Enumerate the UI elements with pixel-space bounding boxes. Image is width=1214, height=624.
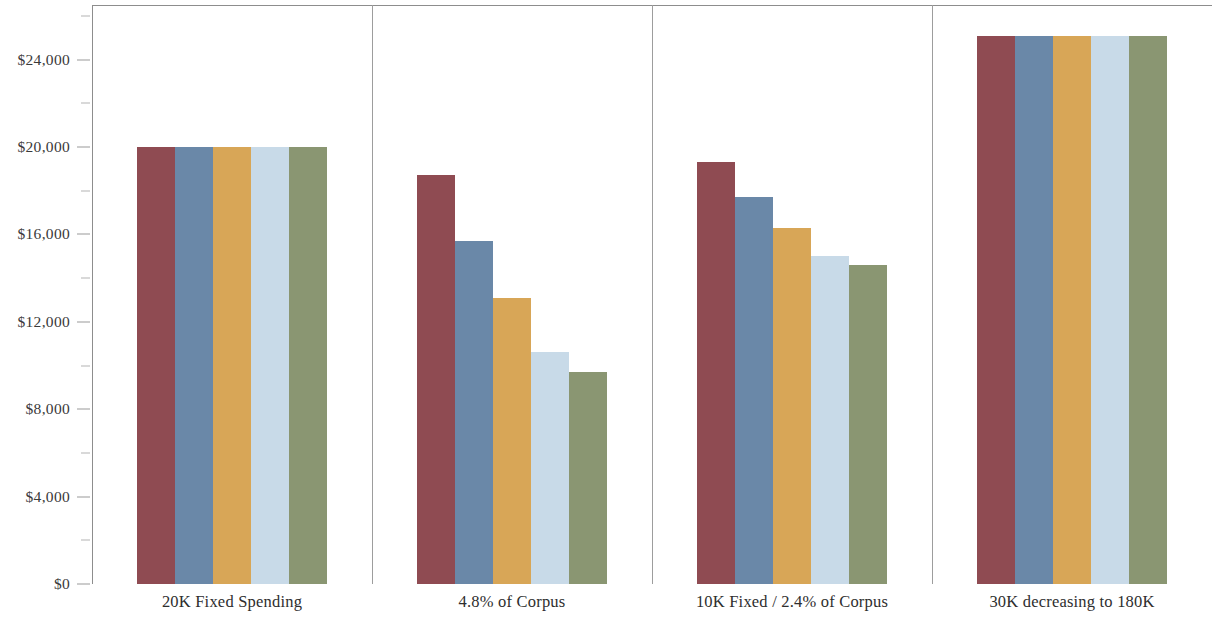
y-axis: $0$4,000$8,000$12,000$16,000$20,000$24,0… [0, 0, 92, 624]
y-axis-minor-tick [81, 452, 90, 453]
bar [773, 228, 811, 584]
bar [569, 372, 607, 584]
y-axis-minor-tick [81, 190, 90, 191]
y-axis-tick-label: $0 [54, 575, 70, 593]
y-axis-tick-label: $8,000 [26, 400, 70, 418]
y-axis-major-tick [77, 321, 90, 322]
bar [251, 147, 289, 584]
x-axis-category-label: 4.8% of Corpus [372, 592, 652, 612]
bar [1091, 36, 1129, 584]
bar [175, 147, 213, 584]
bar [1015, 36, 1053, 584]
bar [531, 352, 569, 584]
panel-divider [652, 5, 653, 584]
bar [493, 298, 531, 584]
x-axis-category-label: 10K Fixed / 2.4% of Corpus [652, 592, 932, 612]
y-axis-minor-tick [81, 365, 90, 366]
y-axis-major-tick [77, 234, 90, 235]
y-axis-tick-label: $12,000 [18, 313, 70, 331]
y-axis-major-tick [77, 584, 90, 585]
y-axis-major-tick [77, 59, 90, 60]
y-axis-tick-label: $24,000 [18, 51, 70, 69]
y-axis-minor-tick [81, 278, 90, 279]
y-axis-major-tick [77, 496, 90, 497]
bar [849, 265, 887, 584]
x-axis-category-label: 20K Fixed Spending [92, 592, 372, 612]
bar [137, 147, 175, 584]
y-axis-major-tick [77, 147, 90, 148]
y-axis-tick-label: $4,000 [26, 488, 70, 506]
y-axis-major-tick [77, 409, 90, 410]
bar [213, 147, 251, 584]
bar [1053, 36, 1091, 584]
y-axis-minor-tick [81, 540, 90, 541]
panel-divider [372, 5, 373, 584]
bar [1129, 36, 1167, 584]
bar [455, 241, 493, 584]
y-axis-tick-label: $20,000 [18, 138, 70, 156]
bar [977, 36, 1015, 584]
y-axis-tick-label: $16,000 [18, 225, 70, 243]
panel-divider [932, 5, 933, 584]
y-axis-minor-tick [81, 103, 90, 104]
y-axis-minor-tick [81, 15, 90, 16]
bar [417, 175, 455, 584]
bar [735, 197, 773, 584]
bar-chart: $0$4,000$8,000$12,000$16,000$20,000$24,0… [0, 0, 1214, 624]
x-axis-category-label: 30K decreasing to 180K [932, 592, 1212, 612]
bar [289, 147, 327, 584]
bar [811, 256, 849, 584]
bar [697, 162, 735, 584]
